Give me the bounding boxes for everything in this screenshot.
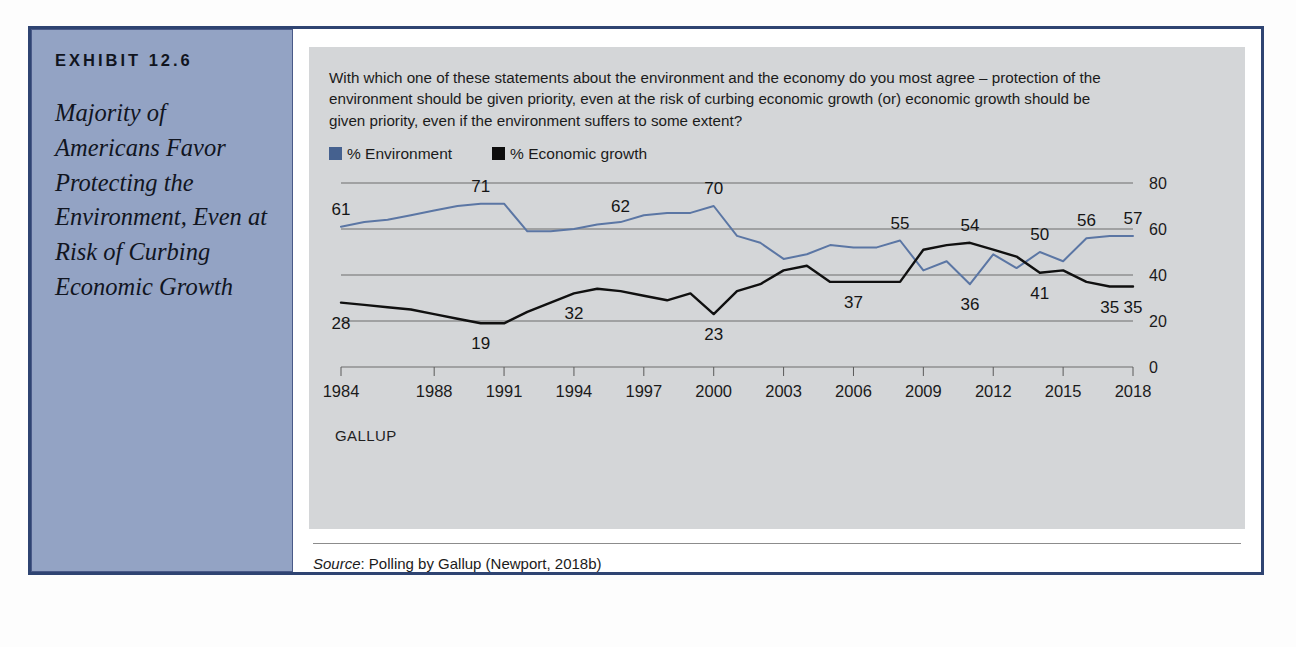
- data-point-label: 32: [564, 304, 583, 323]
- legend-item-environment[interactable]: % Environment: [329, 145, 452, 163]
- x-axis-tick-label: 2012: [975, 382, 1012, 400]
- x-axis-tick-label: 2015: [1045, 382, 1082, 400]
- chart-legend: % Environment % Economic growth: [329, 145, 1231, 163]
- legend-item-economic-growth[interactable]: % Economic growth: [492, 145, 647, 163]
- source-label: Source: [313, 555, 361, 572]
- source-text: : Polling by Gallup (Newport, 2018b): [361, 555, 602, 572]
- data-point-label: 41: [1030, 284, 1049, 303]
- data-point-label: 61: [332, 200, 351, 219]
- x-axis-tick-label: 2003: [765, 382, 802, 400]
- data-point-label: 50: [1030, 225, 1049, 244]
- exhibit-content: With which one of these statements about…: [293, 29, 1261, 572]
- y-axis-tick-label: 0: [1149, 359, 1158, 376]
- data-point-label: 70: [704, 179, 723, 198]
- exhibit-title: Majority of Americans Favor Protecting t…: [55, 96, 273, 305]
- x-axis-tick-label: 1988: [416, 382, 453, 400]
- data-point-label: 37: [844, 293, 863, 312]
- x-axis-tick-label: 1991: [486, 382, 523, 400]
- y-axis-tick-label: 20: [1149, 313, 1167, 330]
- line-chart: 0204060801984198819911994199720002003200…: [323, 169, 1203, 425]
- chart-attribution: GALLUP: [335, 427, 1231, 444]
- data-point-label: 71: [471, 177, 490, 196]
- exhibit-caption-panel: EXHIBIT 12.6 Majority of Americans Favor…: [31, 29, 293, 572]
- y-axis-tick-label: 40: [1149, 267, 1167, 284]
- survey-question: With which one of these statements about…: [329, 67, 1129, 131]
- x-axis-tick-label: 1994: [556, 382, 593, 400]
- data-point-label: 62: [611, 197, 630, 216]
- series-line-environment: [341, 204, 1133, 285]
- series-line-economic-growth: [341, 243, 1133, 323]
- exhibit-page: EXHIBIT 12.6 Majority of Americans Favor…: [0, 0, 1296, 647]
- y-axis-tick-label: 60: [1149, 221, 1167, 238]
- chart-card: With which one of these statements about…: [309, 47, 1245, 529]
- data-point-label: 19: [471, 334, 490, 353]
- data-point-label: 54: [960, 216, 979, 235]
- exhibit-number: EXHIBIT 12.6: [55, 51, 273, 70]
- x-axis-tick-label: 2018: [1115, 382, 1152, 400]
- data-point-label: 57: [1124, 209, 1143, 228]
- data-point-label: 28: [332, 313, 351, 332]
- x-axis-tick-label: 1997: [625, 382, 662, 400]
- data-point-label: 56: [1077, 211, 1096, 230]
- data-point-label: 35: [1100, 297, 1119, 316]
- x-axis-tick-label: 2006: [835, 382, 872, 400]
- legend-label-economic-growth: % Economic growth: [510, 145, 647, 163]
- legend-swatch-economic-growth-icon: [492, 147, 505, 160]
- chart-plot-area: 0204060801984198819911994199720002003200…: [323, 169, 1231, 425]
- data-point-label: 35: [1124, 297, 1143, 316]
- exhibit-frame: EXHIBIT 12.6 Majority of Americans Favor…: [28, 26, 1264, 575]
- legend-swatch-environment-icon: [329, 147, 342, 160]
- x-axis-tick-label: 2000: [695, 382, 732, 400]
- data-point-label: 55: [891, 213, 910, 232]
- y-axis-tick-label: 80: [1149, 175, 1167, 192]
- legend-label-environment: % Environment: [347, 145, 452, 163]
- source-divider: [313, 543, 1241, 544]
- source-note: Source: Polling by Gallup (Newport, 2018…: [313, 555, 1245, 572]
- x-axis-tick-label: 1984: [323, 382, 359, 400]
- x-axis-tick-label: 2009: [905, 382, 942, 400]
- data-point-label: 23: [704, 325, 723, 344]
- data-point-label: 36: [960, 295, 979, 314]
